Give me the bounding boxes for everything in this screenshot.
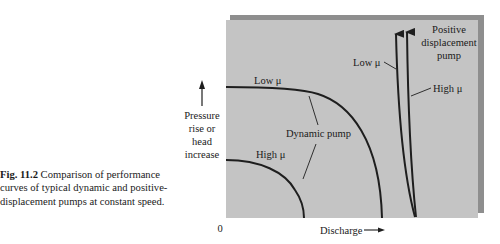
pd-high-mu-label: High μ [433,83,463,94]
pd-low-mu-label: Low μ [353,57,381,68]
origin-label: 0 [217,223,222,234]
pd-label-line-2: displacement [421,37,476,48]
y-label-line-1: Pressure [184,110,220,121]
x-axis-label: Discharge [320,225,363,236]
y-label-line-4: increase [185,149,220,160]
pd-label-line-1: Positive [432,24,466,35]
y-label-line-2: rise or [189,123,216,134]
dynamic-high-mu-label: High μ [256,149,286,160]
x-axis-arrowhead-icon [378,228,385,233]
pd-label-line-3: pump [437,50,461,61]
y-label-line-3: head [192,136,213,147]
dynamic-pump-label: Dynamic pump [286,128,351,139]
y-axis-arrowhead-icon [199,80,205,89]
pump-curves-diagram: Pressure rise or head increase 0 Dischar… [0,0,500,244]
dynamic-low-mu-label: Low μ [254,75,282,86]
